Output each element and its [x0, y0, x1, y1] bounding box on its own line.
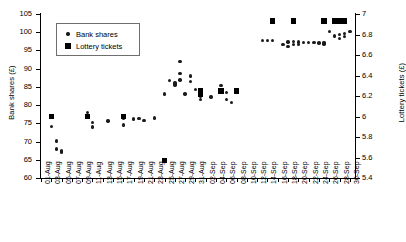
- data-point-bank-shares: [178, 78, 181, 81]
- y-axis-left-tick-label: 105: [6, 10, 32, 18]
- x-axis-tick: [267, 179, 268, 182]
- y-axis-left-tick-label: 75: [6, 119, 32, 127]
- y-axis-right-tick-label: 5.4: [362, 174, 392, 182]
- y-axis-left-tick-label: 95: [6, 46, 32, 54]
- legend-item-bank-shares: Bank shares: [62, 28, 134, 40]
- data-point-lottery-tickets: [321, 18, 326, 23]
- data-point-bank-shares: [322, 41, 325, 44]
- x-axis-tick: [298, 179, 299, 182]
- data-point-bank-shares: [142, 119, 145, 122]
- y-axis-right-tick-label: 6.2: [362, 92, 392, 100]
- data-point-bank-shares: [209, 95, 212, 98]
- data-point-bank-shares: [219, 84, 222, 87]
- data-point-lottery-tickets: [291, 18, 296, 23]
- data-point-bank-shares: [328, 30, 331, 33]
- y-axis-left-tick-label: 65: [6, 156, 32, 164]
- y-axis-left-tick: [36, 87, 40, 88]
- x-axis-tick: [247, 179, 248, 182]
- x-axis-tick: [154, 179, 155, 182]
- x-axis-tick: [144, 179, 145, 182]
- data-point-bank-shares: [199, 98, 202, 101]
- data-point-lottery-tickets: [198, 91, 203, 96]
- x-axis-tick: [165, 179, 166, 182]
- y-axis-left-tick: [36, 14, 40, 15]
- data-point-bank-shares: [163, 92, 166, 95]
- data-point-bank-shares: [91, 125, 94, 128]
- x-axis-tick: [123, 179, 124, 182]
- data-point-bank-shares: [153, 116, 156, 119]
- y-axis-left-tick: [36, 105, 40, 106]
- data-point-bank-shares: [60, 150, 63, 153]
- y-axis-left-tick: [36, 32, 40, 33]
- legend-item-lottery-tickets: Lottery tickets: [62, 40, 134, 52]
- x-axis-tick: [257, 179, 258, 182]
- data-point-bank-shares: [348, 30, 351, 33]
- y-axis-right-tick-label: 6.4: [362, 72, 392, 80]
- data-point-bank-shares: [173, 81, 176, 84]
- y-axis-left-tick: [36, 69, 40, 70]
- y-axis-right-tick: [356, 96, 360, 97]
- y-axis-right-tick-label: 6.6: [362, 51, 392, 59]
- data-point-bank-shares: [189, 74, 192, 77]
- data-point-lottery-tickets: [234, 88, 239, 93]
- y-axis-left-tick: [36, 50, 40, 51]
- data-point-bank-shares: [91, 121, 94, 124]
- y-axis-left-tick: [36, 142, 40, 143]
- x-axis-tick: [113, 179, 114, 182]
- circle-marker-icon: [62, 32, 74, 35]
- data-point-bank-shares: [183, 92, 186, 95]
- data-point-bank-shares: [50, 125, 53, 128]
- data-point-bank-shares: [178, 72, 181, 75]
- y-axis-left-tick: [36, 178, 40, 179]
- x-axis-tick: [278, 179, 279, 182]
- y-axis-left-tick-label: 85: [6, 83, 32, 91]
- y-axis-left-tick: [36, 160, 40, 161]
- data-point-bank-shares: [225, 98, 228, 101]
- y-axis-right-tick: [356, 35, 360, 36]
- data-point-bank-shares: [261, 39, 264, 42]
- x-axis-tick: [62, 179, 63, 182]
- y-axis-right-tick: [356, 55, 360, 56]
- data-point-bank-shares: [225, 91, 228, 94]
- x-axis-tick: [216, 179, 217, 182]
- data-point-bank-shares: [302, 41, 305, 44]
- x-axis-tick: [288, 179, 289, 182]
- y-axis-right-tick: [356, 14, 360, 15]
- x-axis-tick: [82, 179, 83, 182]
- x-axis-tick: [92, 179, 93, 182]
- y-axis-right-tick: [356, 158, 360, 159]
- y-axis-right-tick-label: 5.8: [362, 133, 392, 141]
- data-point-lottery-tickets: [85, 114, 90, 119]
- data-point-bank-shares: [106, 119, 109, 122]
- y-axis-left-tick-label: 80: [6, 101, 32, 109]
- x-axis-tick: [103, 179, 104, 182]
- data-point-lottery-tickets: [270, 18, 275, 23]
- data-point-bank-shares: [266, 39, 269, 42]
- data-point-bank-shares: [132, 117, 135, 120]
- x-axis-tick: [206, 179, 207, 182]
- y-axis-left-tick: [36, 123, 40, 124]
- y-axis-left-tick-label: 90: [6, 65, 32, 73]
- data-point-bank-shares: [189, 80, 192, 83]
- data-point-lottery-tickets: [218, 88, 223, 93]
- legend-label-bank-shares: Bank shares: [76, 30, 118, 39]
- y-axis-right-title: Lottery tickets (£): [397, 53, 406, 133]
- data-point-bank-shares: [178, 60, 181, 63]
- y-axis-right-tick: [356, 76, 360, 77]
- x-axis-tick: [309, 179, 310, 182]
- data-point-bank-shares: [281, 43, 284, 46]
- y-axis-right-tick-label: 6.8: [362, 31, 392, 39]
- y-axis-right-tick: [356, 137, 360, 138]
- x-axis-tick: [185, 179, 186, 182]
- data-point-bank-shares: [333, 34, 336, 37]
- data-point-bank-shares: [271, 39, 274, 42]
- data-point-bank-shares: [55, 147, 58, 150]
- data-point-lottery-tickets: [162, 158, 167, 163]
- y-axis-right-tick-label: 7: [362, 10, 392, 18]
- data-point-bank-shares: [307, 41, 310, 44]
- data-point-lottery-tickets: [49, 114, 54, 119]
- chart-legend: Bank shares Lottery tickets: [56, 23, 140, 56]
- data-point-bank-shares: [338, 33, 341, 36]
- x-axis-tick: [237, 179, 238, 182]
